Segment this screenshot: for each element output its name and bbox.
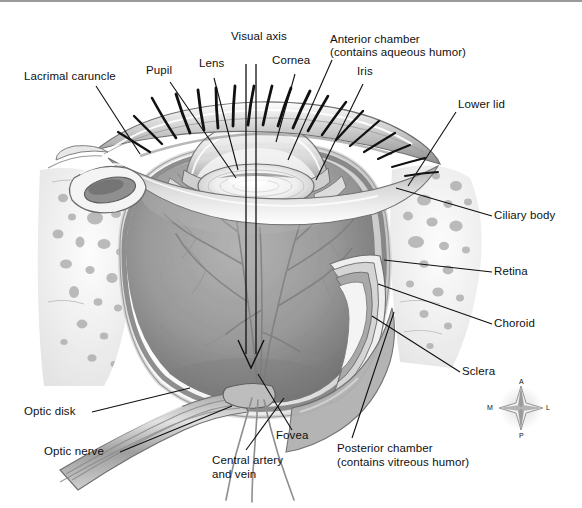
- label-posterior-chamber-line2: (contains vitreous humor): [337, 456, 469, 469]
- label-central-artery-line1: Central artery: [212, 454, 283, 467]
- label-lower-lid: Lower lid: [458, 98, 505, 111]
- label-sclera: Sclera: [462, 365, 495, 378]
- label-lacrimal-caruncle: Lacrimal caruncle: [24, 70, 116, 83]
- label-posterior-chamber-line1: Posterior chamber: [337, 442, 433, 455]
- label-fovea: Fovea: [276, 429, 308, 442]
- label-optic-nerve: Optic nerve: [44, 445, 104, 458]
- label-anterior-chamber-line1: Anterior chamber: [330, 33, 420, 46]
- compass-label-anterior: A: [519, 378, 524, 386]
- label-anterior-chamber-line2: (contains aqueous humor): [330, 46, 466, 59]
- label-visual-axis: Visual axis: [231, 30, 287, 43]
- label-retina: Retina: [494, 265, 528, 278]
- eye-anatomy-figure: Lacrimal caruncle Pupil Lens Visual axis…: [0, 0, 582, 508]
- label-optic-disk: Optic disk: [24, 405, 76, 418]
- label-lens: Lens: [199, 57, 224, 70]
- label-cornea: Cornea: [272, 54, 310, 67]
- compass-label-medial: M: [487, 404, 493, 412]
- label-central-artery-line2: and vein: [212, 468, 256, 481]
- compass-label-lateral: L: [546, 404, 550, 412]
- label-pupil: Pupil: [146, 64, 172, 77]
- compass-label-posterior: P: [519, 432, 524, 440]
- label-iris-upper: Iris: [357, 65, 373, 78]
- orientation-compass: [499, 386, 543, 430]
- label-ciliary-body: Ciliary body: [494, 209, 555, 222]
- optic-nerve: [60, 383, 294, 502]
- label-choroid: Choroid: [494, 317, 535, 330]
